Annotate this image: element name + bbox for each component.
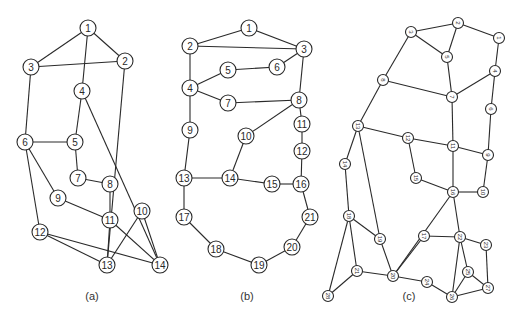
graph-edge (486, 245, 488, 288)
node-label: 5 (225, 65, 231, 76)
graph-edge (452, 97, 453, 146)
node-label: 15 (413, 175, 419, 182)
graph-node: 14 (340, 159, 351, 170)
graph-edge (107, 61, 125, 265)
graph-node: 9 (182, 122, 198, 138)
graph-edge (82, 91, 160, 265)
graph-edge (488, 109, 491, 155)
node-label: 2 (187, 41, 193, 52)
graph-node: 17 (419, 231, 430, 242)
node-label: 3 (301, 44, 307, 55)
graph-node: 21 (352, 266, 363, 277)
node-label: 18 (210, 244, 222, 255)
node-label: 15 (266, 179, 278, 190)
graph-node: 8 (378, 75, 389, 86)
graph-node: 17 (176, 209, 192, 225)
graph-node: 15 (411, 173, 422, 184)
graph-node: 18 (344, 211, 355, 222)
graph-edge (408, 138, 416, 178)
node-label: 18 (346, 213, 352, 220)
graph-edge (190, 28, 249, 46)
panel-caption-a: (a) (85, 290, 98, 302)
node-label: 16 (295, 179, 307, 190)
graph-node: 2 (117, 53, 133, 69)
graph-node: 2 (182, 38, 198, 54)
graph-node: 13 (353, 121, 364, 132)
graph-figure: 1234567891011121314 12345678910111213141… (0, 0, 518, 333)
graph-edge (190, 46, 304, 49)
node-label: 23 (483, 242, 489, 249)
graph-node: 22 (455, 232, 466, 243)
graph-node: 5 (67, 134, 83, 150)
graph-node: 10 (134, 203, 150, 219)
graph-node: 7 (70, 170, 86, 186)
graph-node: 19 (251, 257, 267, 273)
graph-node: 3 (296, 41, 312, 57)
graph-node: 2 (453, 18, 464, 29)
panel-caption-b: (b) (240, 290, 253, 302)
node-label: 13 (355, 123, 361, 130)
node-label: 6 (274, 62, 280, 73)
node-label: 17 (421, 233, 427, 240)
node-label: 25 (465, 269, 471, 276)
node-label: 24 (424, 279, 430, 286)
graph-node: 13 (176, 170, 192, 186)
graph-edge (345, 164, 349, 216)
graph-node: 14 (152, 257, 168, 273)
graph-node: 7 (447, 92, 458, 103)
node-label: 11 (105, 215, 116, 226)
graph-edge (328, 216, 349, 296)
graph-node: 1 (241, 20, 257, 36)
node-label: 12 (296, 146, 308, 157)
node-label: 11 (297, 119, 308, 130)
graph-node: 4 (182, 80, 198, 96)
graph-edge (358, 126, 380, 239)
graph-edge (453, 192, 460, 237)
graph-node: 15 (264, 176, 280, 192)
graph-edge (408, 138, 453, 146)
graph-node: 18 (208, 241, 224, 257)
node-label: 1 (85, 23, 91, 34)
graph-edge (393, 236, 424, 276)
graph-node: 9 (483, 150, 494, 161)
node-label: 20 (286, 242, 298, 253)
graph-edge (40, 232, 107, 265)
graph-node: 5 (442, 52, 453, 63)
node-label: 12 (34, 227, 46, 238)
node-label: 9 (187, 125, 193, 136)
graph-node: 4 (490, 66, 501, 77)
graph-node: 12 (294, 143, 310, 159)
graph-edge (82, 28, 88, 91)
graph-edge (31, 61, 125, 67)
graph-edge (411, 23, 458, 32)
graph-edge (358, 126, 408, 138)
node-label: 4 (187, 83, 193, 94)
graph-node: 6 (486, 104, 497, 115)
graph-node: 1 (494, 33, 505, 44)
node-label: 17 (178, 212, 190, 223)
graph-node: 21 (302, 209, 318, 225)
graph-node: 16 (293, 176, 309, 192)
node-label: 9 (55, 193, 61, 204)
graph-edge (25, 67, 31, 142)
graph-node: 11 (294, 116, 310, 132)
node-label: 3 (28, 62, 34, 73)
graph-node: 26 (447, 292, 458, 303)
graph-node: 13 (99, 257, 115, 273)
graph-edge (411, 32, 447, 57)
node-label: 14 (224, 173, 236, 184)
node-label: 21 (304, 212, 316, 223)
node-label: 14 (342, 161, 348, 168)
graph-edge (383, 32, 411, 80)
node-label: 7 (75, 173, 81, 184)
graph-node: 20 (388, 271, 399, 282)
node-label: 21 (354, 268, 360, 275)
graph-node: 3 (406, 27, 417, 38)
graph-node: 4 (74, 83, 90, 99)
node-label: 16 (450, 189, 456, 196)
graph-node: 8 (291, 92, 307, 108)
node-label: 10 (136, 206, 148, 217)
node-label: 14 (154, 260, 166, 271)
graph-node: 20 (284, 239, 300, 255)
graph-edge (249, 28, 304, 49)
